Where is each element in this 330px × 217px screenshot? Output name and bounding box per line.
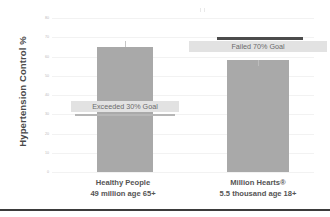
top-speck-mark [204,8,205,12]
top-speck-mark [200,8,201,12]
y-tick-label: 0 [47,170,49,174]
y-tick-label: 60 [45,55,49,59]
category-label-title: Million Hearts® [230,178,285,187]
plot-area: 80 70 60 50 40 30 20 10 0 [52,18,314,172]
category-label-million-hearts: Million Hearts® 5.5 thousand age 18+ [190,178,326,199]
gridline: 80 [52,18,314,19]
callout-exceeded-30-goal: Exceeded 30% Goal [71,101,179,112]
category-label-subtitle: 49 million age 65+ [58,189,188,200]
y-tick-label: 70 [45,35,49,39]
y-tick-label: 30 [45,112,49,116]
category-label-healthy-people: Healthy People 49 million age 65+ [58,178,188,199]
y-tick-label: 50 [45,74,49,78]
y-axis-title: Hypertension Control % [17,12,28,172]
error-bar-million-hearts [258,60,259,66]
goal-line-70-percent [217,37,303,40]
chart-container: Hypertension Control % 80 70 60 50 40 30… [0,0,330,217]
goal-line-30-percent [75,114,175,116]
category-label-title: Healthy People [96,178,150,187]
callout-failed-70-goal: Failed 70% Goal [189,41,327,52]
y-tick-label: 80 [45,16,49,20]
category-label-subtitle: 5.5 thousand age 18+ [190,189,326,200]
y-tick-label: 40 [45,93,49,97]
gridline: 60 [52,57,314,58]
y-tick-label: 10 [45,151,49,155]
bottom-divider-rule [0,209,330,211]
gridline: 0 [52,172,314,173]
bar-million-hearts[interactable] [227,60,289,172]
y-tick-label: 20 [45,132,49,136]
